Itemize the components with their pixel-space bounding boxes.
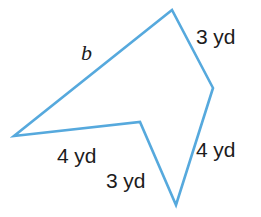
side-label-top-right: 3 yd bbox=[196, 26, 235, 47]
side-label-bottom-left: 4 yd bbox=[57, 145, 96, 166]
side-label-bottom-right: 4 yd bbox=[196, 139, 235, 160]
side-label-unknown-b: b bbox=[81, 42, 92, 64]
side-label-notch-bottom: 3 yd bbox=[106, 170, 145, 191]
geometry-figure-container: 3 yd 4 yd 4 yd 3 yd b bbox=[0, 0, 261, 217]
